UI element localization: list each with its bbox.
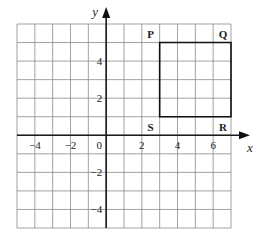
y-tick-label: 2: [97, 92, 103, 104]
grid-lines: [17, 24, 231, 228]
x-tick-label: 6: [210, 139, 216, 151]
x-tick-label: −2: [65, 139, 77, 151]
y-axis-arrow-icon: [102, 7, 110, 18]
y-tick-label: −4: [90, 203, 102, 215]
y-axis-label: y: [90, 4, 98, 19]
x-tick-label: −4: [29, 139, 41, 151]
x-axis-label: x: [246, 140, 253, 155]
x-tick-label: 4: [175, 139, 181, 151]
vertex-label-p: P: [147, 28, 154, 40]
vertex-label-q: Q: [219, 28, 228, 40]
vertex-label-r: R: [219, 121, 228, 133]
y-tick-label: 4: [97, 55, 103, 67]
coordinate-grid: xy−4−2024642−2−4PQRS: [0, 0, 259, 239]
vertex-label-s: S: [148, 121, 154, 133]
x-axis-arrow-icon: [239, 131, 250, 139]
y-tick-label: −2: [90, 166, 102, 178]
x-tick-label: 2: [139, 139, 145, 151]
x-tick-label: 0: [96, 139, 102, 151]
